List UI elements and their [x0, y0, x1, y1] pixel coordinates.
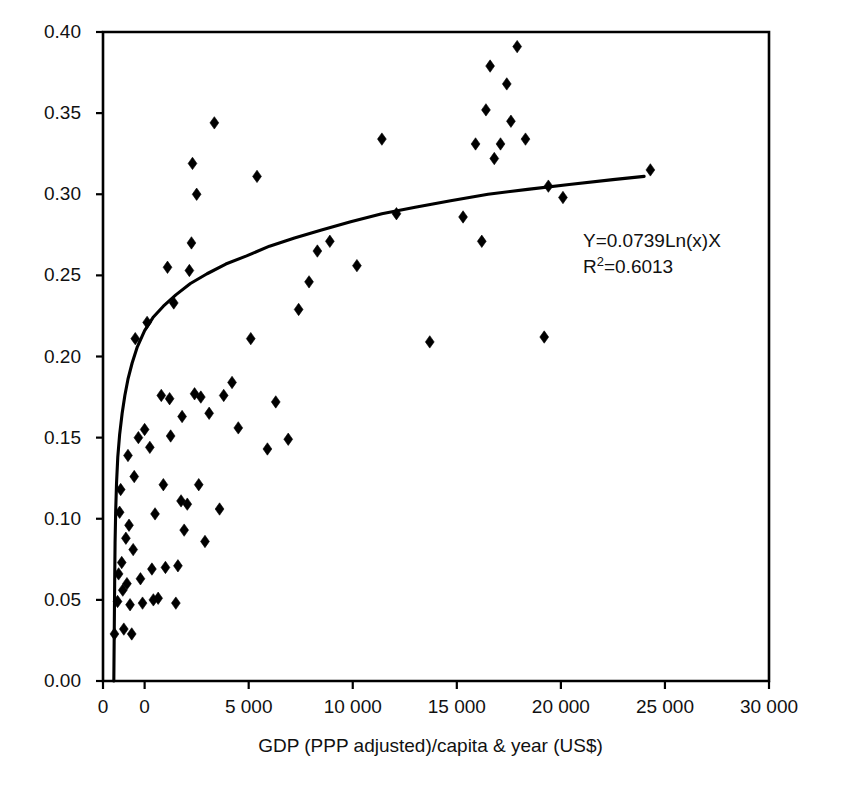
data-point-marker — [192, 188, 201, 200]
data-point-marker — [117, 556, 126, 568]
y-tick-label: 0.25 — [0, 265, 81, 284]
data-point-marker — [305, 276, 314, 288]
data-point-marker — [215, 503, 224, 515]
r-squared-text: R2=0.6013 — [583, 254, 721, 280]
data-point-marker — [121, 532, 130, 544]
r-squared-value: =0.6013 — [604, 256, 673, 277]
data-point-marker — [377, 133, 386, 145]
y-tick-label: 0.30 — [0, 184, 81, 203]
data-point-marker — [486, 60, 495, 72]
data-point-marker — [234, 422, 243, 434]
y-tick-label: 0.10 — [0, 509, 81, 528]
data-point-marker — [178, 410, 187, 422]
data-point-marker — [165, 392, 174, 404]
data-point-marker — [496, 138, 505, 150]
data-point-marker — [130, 470, 139, 482]
data-point-marker — [425, 336, 434, 348]
data-point-marker — [477, 235, 486, 247]
data-point-markers — [110, 40, 655, 640]
data-point-marker — [185, 264, 194, 276]
axes-frame — [103, 32, 769, 681]
data-point-marker — [119, 623, 128, 635]
data-point-marker — [145, 441, 154, 453]
data-point-marker — [138, 597, 147, 609]
y-tick-label: 0.20 — [0, 347, 81, 366]
data-point-marker — [161, 561, 170, 573]
data-point-marker — [502, 78, 511, 90]
data-point-marker — [353, 259, 362, 271]
x-tick-label: 10 000 — [293, 697, 413, 716]
plot-canvas — [0, 0, 861, 790]
x-tick-label: 0 — [85, 697, 205, 716]
data-point-marker — [187, 237, 196, 249]
data-point-marker — [482, 104, 491, 116]
data-point-marker — [174, 560, 183, 572]
y-tick-label: 0.35 — [0, 103, 81, 122]
y-tick-label: 0.05 — [0, 590, 81, 609]
data-point-marker — [166, 430, 175, 442]
data-point-marker — [134, 431, 143, 443]
data-point-marker — [180, 524, 189, 536]
data-point-marker — [210, 117, 219, 129]
r-squared-exponent: 2 — [597, 254, 604, 269]
trendline — [114, 176, 644, 681]
data-point-marker — [148, 563, 157, 575]
data-point-marker — [201, 535, 210, 547]
data-point-marker — [151, 508, 160, 520]
data-point-marker — [513, 40, 522, 52]
data-point-marker — [205, 407, 214, 419]
data-point-marker — [124, 449, 133, 461]
x-tick-label: 25 000 — [605, 697, 725, 716]
data-point-marker — [459, 211, 468, 223]
data-point-marker — [171, 597, 180, 609]
data-point-marker — [294, 303, 303, 315]
data-point-marker — [143, 316, 152, 328]
data-point-marker — [559, 191, 568, 203]
data-point-marker — [126, 599, 135, 611]
trendline-path — [114, 176, 644, 681]
data-point-marker — [471, 138, 480, 150]
data-point-marker — [110, 628, 119, 640]
regression-annotation: Y=0.0739Ln(x)X R2=0.6013 — [583, 228, 721, 280]
plot-border — [103, 32, 769, 681]
y-tick-label: 0.40 — [0, 22, 81, 41]
data-point-marker — [188, 157, 197, 169]
data-point-marker — [228, 376, 237, 388]
data-point-marker — [271, 396, 280, 408]
data-point-marker — [157, 389, 166, 401]
data-point-marker — [521, 133, 530, 145]
data-point-marker — [544, 180, 553, 192]
data-point-marker — [325, 235, 334, 247]
y-tick-label: 0.00 — [0, 671, 81, 690]
data-point-marker — [646, 164, 655, 176]
data-point-marker — [246, 332, 255, 344]
data-point-marker — [163, 261, 172, 273]
x-tick-label: 15 000 — [397, 697, 517, 716]
data-point-marker — [540, 331, 549, 343]
data-point-marker — [263, 443, 272, 455]
data-point-marker — [284, 433, 293, 445]
y-tick-label: 0.15 — [0, 428, 81, 447]
x-tick-label: 5 000 — [189, 697, 309, 716]
data-point-marker — [129, 543, 138, 555]
data-point-marker — [194, 478, 203, 490]
data-point-marker — [507, 115, 516, 127]
regression-equation-text: Y=0.0739Ln(x)X — [583, 228, 721, 254]
data-point-marker — [136, 573, 145, 585]
data-point-marker — [140, 423, 149, 435]
data-point-marker — [127, 628, 136, 640]
data-point-marker — [253, 170, 262, 182]
x-axis-title: GDP (PPP adjusted)/capita & year (US$) — [0, 735, 861, 757]
x-tick-label: 30 000 — [709, 697, 829, 716]
data-point-marker — [490, 152, 499, 164]
data-point-marker — [159, 478, 168, 490]
data-point-marker — [313, 245, 322, 257]
x-tick-label: 20 000 — [501, 697, 621, 716]
data-point-marker — [125, 519, 134, 531]
data-point-marker — [219, 389, 228, 401]
scatter-chart-figure: 0.000.050.100.150.200.250.300.350.40 005… — [0, 0, 861, 790]
